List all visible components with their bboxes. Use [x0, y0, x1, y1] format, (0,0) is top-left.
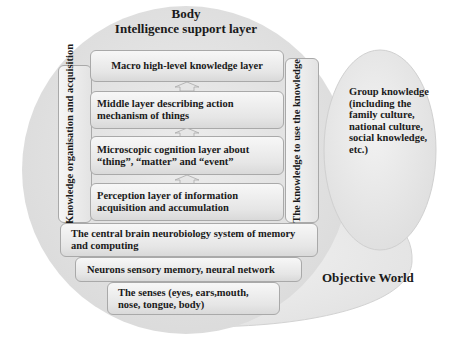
body-title: Body [0, 6, 372, 22]
macro-layer-box: Macro high-level knowledge layer [90, 50, 284, 82]
arrow-up-icon [172, 82, 202, 91]
knowledge-organisation-label: Knowledge organisation and acquisition [64, 66, 88, 224]
perception-layer-label: Perception layer of information acquisit… [97, 190, 277, 214]
middle-layer-label: Middle layer describing action mechanism… [97, 98, 277, 122]
microscopic-layer-box: Microscopic cognition layer about “thing… [90, 136, 284, 175]
knowledge-organisation-box: Knowledge organisation and acquisition [58, 65, 92, 223]
intelligence-support-title: Intelligence support layer [0, 21, 372, 37]
macro-layer-label: Macro high-level knowledge layer [111, 60, 263, 72]
knowledge-to-use-box: The knowledge to use the knowledge [285, 58, 319, 223]
group-knowledge-label: Group knowledge (including the family cu… [349, 86, 431, 155]
neurons-label: Neurons sensory memory, neural network [87, 264, 275, 276]
perception-layer-box: Perception layer of information acquisit… [90, 183, 284, 221]
middle-layer-box: Middle layer describing action mechanism… [90, 91, 284, 129]
senses-label: The senses (eyes, ears,mouth, nose, tong… [118, 287, 273, 311]
central-brain-box: The central brain neurobiology system of… [60, 223, 318, 257]
central-brain-label: The central brain neurobiology system of… [71, 228, 311, 252]
objective-world-label: Objective World [322, 270, 414, 286]
knowledge-to-use-label: The knowledge to use the knowledge [291, 59, 315, 224]
neurons-box: Neurons sensory memory, neural network [75, 257, 302, 282]
microscopic-layer-label: Microscopic cognition layer about “thing… [97, 144, 277, 168]
senses-box: The senses (eyes, ears,mouth, nose, tong… [107, 282, 280, 315]
